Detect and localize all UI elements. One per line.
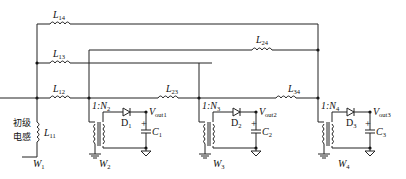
label-w4: W4 [338,158,350,170]
label-w2: W2 [99,158,111,170]
label-n2: 1:N2 [92,100,110,112]
inductor-l13 [50,61,70,63]
label-n4: 1:N4 [321,100,340,112]
label-l13: L13 [52,48,65,60]
branch-l14 [37,22,318,50]
branch-main [0,50,320,100]
label-n3: 1:N3 [202,100,220,112]
inductor-l12 [50,96,70,98]
label-primary-2: 电感 [13,131,31,142]
inductor-l24 [252,48,272,50]
label-c3: C3 [376,126,386,138]
label-l12: L12 [52,83,65,95]
label-vout3: Vout3 [373,106,391,118]
label-c1: C1 [152,126,162,138]
inductor-l23 [158,96,178,98]
diode-d3 [347,108,354,116]
label-l11: L11 [43,127,56,139]
label-primary-1: 初级 [13,117,31,128]
label-l24: L24 [255,34,269,46]
circuit-diagram: L14 L13 L12 L11 L24 L23 L34 初级 电感 W1 W2 … [0,0,406,179]
plus-c1: + [141,118,147,129]
label-w1: W1 [33,158,45,170]
label-l34: L34 [287,83,301,95]
label-l14: L14 [52,9,66,21]
label-vout2: Vout2 [259,106,277,118]
diode-d1 [123,108,130,116]
plus-c2: + [251,118,257,129]
diode-d2 [233,108,240,116]
label-l23: L23 [165,83,178,95]
label-vout1: Vout1 [149,106,167,118]
label-d3: D3 [346,117,356,129]
inductor-l14 [50,22,70,24]
label-w3: W3 [213,158,225,170]
label-c2: C2 [262,126,272,138]
inductor-l34 [276,96,296,98]
label-d2: D2 [231,117,241,129]
label-d1: D1 [121,117,131,129]
plus-c3: + [365,118,371,129]
